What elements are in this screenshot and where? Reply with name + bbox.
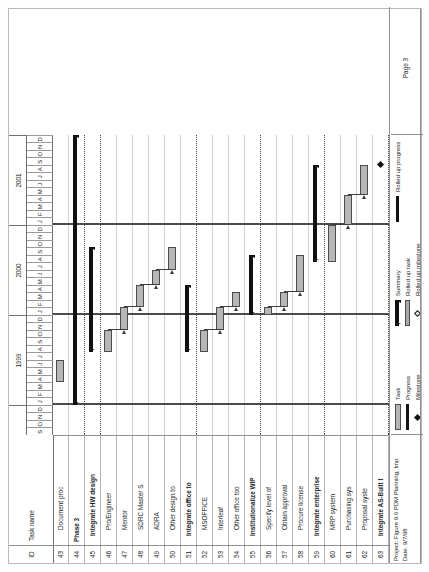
table-row-task-name[interactable]: Interleaf	[213, 435, 229, 545]
task-bar[interactable]	[56, 360, 64, 383]
legend-progress-swatch	[403, 404, 412, 430]
month-label: F	[27, 210, 53, 218]
year-divider-line	[53, 403, 389, 405]
summary-bar[interactable]	[73, 135, 77, 405]
task-bar[interactable]	[216, 308, 224, 331]
table-row-task-name[interactable]: Other design to	[165, 435, 181, 545]
table-row-id[interactable]: 43	[53, 546, 69, 563]
table-row-task-name[interactable]: Proposal syste	[357, 435, 373, 545]
task-bar[interactable]	[200, 330, 208, 353]
summary-bar[interactable]	[185, 285, 189, 353]
month-label: S	[27, 338, 53, 346]
table-row-task-name[interactable]: Other office too	[229, 435, 245, 545]
legend-task-swatch	[393, 404, 402, 430]
table-row-task-name[interactable]: Specify level of	[261, 435, 277, 545]
table-row-id[interactable]: 61	[341, 546, 357, 563]
table-row-id[interactable]: 49	[149, 546, 165, 563]
table-row-task-name[interactable]: Mentor	[117, 435, 133, 545]
chart-grid-row	[325, 135, 341, 435]
table-row-id[interactable]: 48	[133, 546, 149, 563]
table-row-task-name[interactable]: Integrate enterprise	[309, 435, 325, 545]
table-row-task-name[interactable]: MRP system	[325, 435, 341, 545]
legend-item-label: Rolled up task	[404, 258, 410, 296]
table-row-id[interactable]: 57	[277, 546, 293, 563]
dependency-arrow-icon	[361, 195, 365, 199]
legend-item-label: Rolled up progress	[394, 142, 400, 192]
summary-bar-start-cap	[313, 260, 319, 263]
table-row-id[interactable]: 44	[69, 546, 85, 563]
table-row-id[interactable]: 55	[245, 546, 261, 563]
month-label: J	[27, 270, 53, 278]
date-label: Date: 9/7/98	[401, 441, 410, 561]
legend-summary-swatch	[393, 300, 402, 326]
table-row-task-name[interactable]: Integrate HW design	[85, 435, 101, 545]
task-bar[interactable]	[344, 195, 352, 225]
table-row-id[interactable]: 58	[293, 546, 309, 563]
summary-bar[interactable]	[313, 165, 317, 263]
summary-bar-end-cap	[73, 135, 79, 138]
table-row-id[interactable]: 53	[213, 546, 229, 563]
table-row-task-name[interactable]: Purchasing sys	[341, 435, 357, 545]
dependency-arrow-icon	[217, 330, 221, 334]
table-row-task-name[interactable]: MSOFFICE	[197, 435, 213, 545]
summary-bar-start-cap	[185, 350, 191, 353]
month-label: F	[27, 390, 53, 398]
month-label: A	[27, 285, 53, 293]
task-bar[interactable]	[232, 293, 240, 308]
legend-item-label: Progress	[404, 376, 410, 400]
task-bar[interactable]	[280, 293, 288, 308]
table-row-id[interactable]: 59	[309, 546, 325, 563]
dependency-arrow-icon	[121, 330, 125, 334]
table-row-task-name[interactable]: ADRA	[149, 435, 165, 545]
month-label: M	[27, 383, 53, 391]
table-row-id[interactable]: 62	[357, 546, 373, 563]
month-label: M	[27, 278, 53, 286]
task-bar[interactable]	[104, 330, 112, 353]
chart-grid-row	[341, 135, 357, 435]
task-bar[interactable]	[168, 248, 176, 271]
table-row-task-name[interactable]: Document proc	[53, 435, 69, 545]
month-label: D	[27, 225, 53, 233]
summary-bar-start-cap	[89, 350, 95, 353]
table-row-id[interactable]: 56	[261, 546, 277, 563]
table-row-id[interactable]: 47	[117, 546, 133, 563]
task-bar[interactable]	[264, 308, 272, 316]
project-label: Project: Figure 9.6 PDM Planning, Imp	[392, 441, 401, 561]
table-row-id[interactable]: 52	[197, 546, 213, 563]
chart-grid-row	[213, 135, 229, 435]
task-bar[interactable]	[296, 255, 304, 293]
month-label: N	[27, 143, 53, 151]
table-row-task-name[interactable]: Institutionalize WIP	[245, 435, 261, 545]
table-row-task-name[interactable]: Integrate AS-Built I	[373, 435, 389, 545]
month-label: J	[27, 308, 53, 316]
month-label: S	[27, 428, 53, 436]
month-label: M	[27, 203, 53, 211]
summary-bar[interactable]	[249, 255, 253, 315]
task-bar[interactable]	[360, 165, 368, 195]
table-row-task-name[interactable]: Procure license	[293, 435, 309, 545]
year-label: 1999	[9, 315, 27, 405]
table-row-id[interactable]: 51	[181, 546, 197, 563]
table-row-id[interactable]: 60	[325, 546, 341, 563]
task-bar[interactable]	[120, 308, 128, 331]
table-row-task-name[interactable]: Pro/Engineer	[101, 435, 117, 545]
gantt-sheet: ID 4344454647484950515253545556575859606…	[8, 8, 422, 564]
month-label: J	[27, 263, 53, 271]
summary-bar[interactable]	[89, 248, 93, 353]
project-info: Project: Figure 9.6 PDM Planning, Imp Da…	[392, 441, 410, 561]
task-bar[interactable]	[136, 285, 144, 308]
header-task-name: Task name	[9, 435, 54, 545]
table-row-id[interactable]: 46	[101, 546, 117, 563]
table-row-task-name[interactable]: Phase 3	[69, 435, 85, 545]
task-bar[interactable]	[152, 270, 160, 285]
task-bar[interactable]	[328, 225, 336, 263]
table-row-task-name[interactable]: Obtain approval	[277, 435, 293, 545]
table-row-id[interactable]: 45	[85, 546, 101, 563]
month-label: M	[27, 293, 53, 301]
chart-grid-row	[101, 135, 117, 435]
table-row-task-name[interactable]: SDRC Master S	[133, 435, 149, 545]
table-row-task-name[interactable]: Integrate office to	[181, 435, 197, 545]
table-row-id[interactable]: 54	[229, 546, 245, 563]
table-row-id[interactable]: 63	[373, 546, 389, 563]
table-row-id[interactable]: 50	[165, 546, 181, 563]
